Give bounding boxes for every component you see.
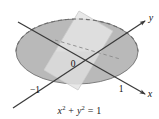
x-negative-one-label: −1 xyxy=(30,85,40,95)
x-axis-label: x xyxy=(147,88,153,99)
math-figure: y x 0 −1 1 x2 + y2 = 1 xyxy=(0,0,159,119)
x-positive-one-label: 1 xyxy=(119,84,124,94)
equation-caption: x2 + y2 = 1 xyxy=(0,105,159,116)
figure-canvas: y x 0 −1 1 xyxy=(0,0,159,119)
caption-plus: + xyxy=(66,105,77,116)
caption-value: 1 xyxy=(96,105,101,116)
y-axis-label: y xyxy=(148,12,154,23)
origin-label: 0 xyxy=(71,59,76,69)
caption-equals: = xyxy=(85,105,96,116)
